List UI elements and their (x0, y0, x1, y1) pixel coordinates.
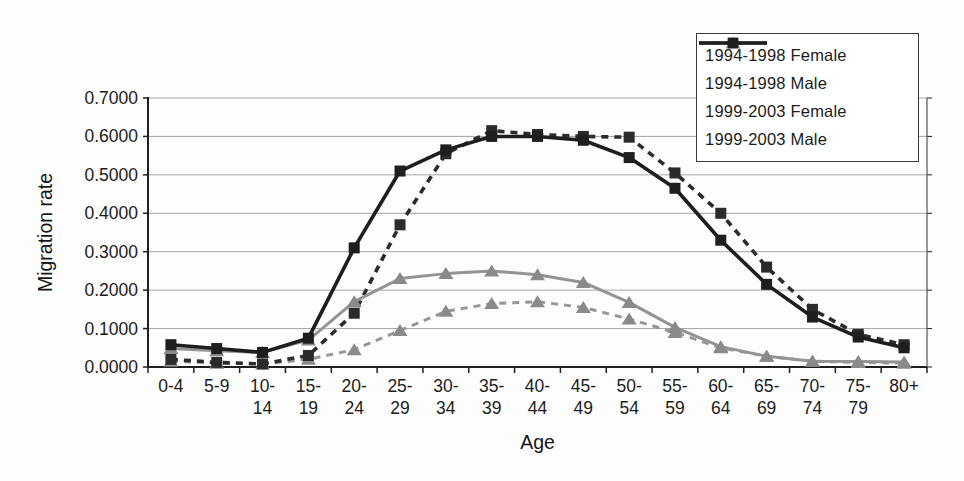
marker-square-1999-2003-male (715, 235, 726, 246)
series-line-1999-2003-male (171, 136, 904, 352)
x-tick-label: 39 (482, 398, 501, 418)
x-tick-label: 30- (433, 376, 458, 396)
x-tick-label: 24 (344, 398, 364, 418)
marker-square-1999-2003-male (853, 332, 864, 343)
legend-item: 1999-2003 Female (705, 102, 910, 121)
legend-item: 1999-2003 Male (705, 130, 910, 149)
marker-square-1999-2003-male (624, 152, 635, 163)
marker-square-1999-2003-male (807, 312, 818, 323)
marker-square-1994-1998-male (257, 358, 268, 369)
marker-triangle-1999-2003-female (622, 296, 637, 308)
x-tick-label: 79 (849, 398, 868, 418)
marker-square-1994-1998-male (303, 350, 314, 361)
marker-square-1994-1998-male (165, 354, 176, 365)
x-tick-label: 20- (342, 376, 367, 396)
legend-item: 1994-1998 Male (705, 74, 910, 93)
marker-square-1999-2003-male (303, 333, 314, 344)
x-tick-label: 44 (528, 398, 548, 418)
y-tick-label: 0.7000 (84, 88, 138, 108)
x-axis-title: Age (520, 431, 555, 453)
marker-square-1999-2003-male (349, 242, 360, 253)
series-line-1994-1998-female (171, 302, 904, 364)
migration-rate-chart: 0.00000.10000.20000.30000.40000.50000.60… (0, 0, 964, 481)
x-tick-label: 69 (757, 398, 776, 418)
marker-square-1999-2003-male (165, 339, 176, 350)
y-tick-label: 0.3000 (84, 242, 138, 262)
y-axis-title: Migration rate (34, 173, 56, 292)
marker-square-1999-2003-male (486, 131, 497, 142)
legend-label: 1994-1998 Male (705, 74, 827, 93)
y-tick-label: 0.1000 (84, 319, 138, 339)
x-tick-label: 80+ (889, 376, 919, 396)
x-tick-label: 60- (708, 376, 733, 396)
marker-square-1999-2003-male (211, 343, 222, 354)
x-tick-label: 14 (253, 398, 273, 418)
marker-square-1994-1998-male (715, 208, 726, 219)
x-tick-label: 5-9 (204, 376, 229, 396)
y-tick-label: 0.6000 (84, 126, 138, 146)
x-tick-label: 29 (390, 398, 409, 418)
x-tick-label: 0-4 (158, 376, 184, 396)
marker-square-1994-1998-male (761, 262, 772, 273)
x-tick-label: 55- (662, 376, 687, 396)
x-tick-label: 70- (800, 376, 825, 396)
y-tick-label: 0.4000 (84, 203, 138, 223)
y-tick-label: 0.2000 (84, 280, 138, 300)
chart-legend: 1994-1998 Female 1994-1998 Male 1999-200… (696, 33, 919, 162)
x-tick-label: 54 (619, 398, 639, 418)
marker-square-1999-2003-male (761, 279, 772, 290)
marker-triangle-1994-1998-female (347, 343, 362, 355)
marker-square-1994-1998-male (349, 308, 360, 319)
marker-square-1999-2003-male (669, 183, 680, 194)
legend-label: 1999-2003 Female (705, 102, 847, 121)
marker-triangle-1994-1998-female (622, 312, 637, 324)
marker-square-1994-1998-male (211, 357, 222, 368)
x-tick-label: 59 (665, 398, 684, 418)
marker-square-1994-1998-male (669, 167, 680, 178)
y-tick-label: 0.0000 (84, 357, 138, 377)
x-tick-label: 15- (296, 376, 321, 396)
x-tick-label: 19 (299, 398, 318, 418)
marker-square-1999-2003-male (728, 38, 738, 48)
x-tick-label: 40- (525, 376, 550, 396)
marker-square-1999-2003-male (532, 131, 543, 142)
marker-square-1994-1998-male (395, 219, 406, 230)
marker-square-1999-2003-male (395, 166, 406, 177)
x-tick-label: 75- (846, 376, 871, 396)
marker-square-1999-2003-male (440, 144, 451, 155)
y-tick-label: 0.5000 (84, 165, 138, 185)
legend-swatch-solid-square (697, 34, 769, 52)
x-tick-label: 10- (250, 376, 275, 396)
marker-square-1994-1998-male (624, 132, 635, 143)
x-tick-label: 64 (711, 398, 731, 418)
x-tick-label: 25- (387, 376, 412, 396)
x-tick-label: 74 (803, 398, 823, 418)
marker-triangle-1999-2003-female (667, 321, 682, 333)
marker-triangle-1994-1998-female (393, 324, 408, 336)
marker-square-1999-2003-male (578, 135, 589, 146)
x-tick-label: 45- (571, 376, 596, 396)
marker-square-1999-2003-male (899, 342, 910, 353)
x-tick-label: 34 (436, 398, 456, 418)
x-tick-label: 50- (616, 376, 641, 396)
legend-label: 1999-2003 Male (705, 130, 827, 149)
marker-square-1999-2003-male (257, 347, 268, 358)
x-tick-label: 35- (479, 376, 504, 396)
x-tick-label: 65- (754, 376, 779, 396)
x-tick-label: 49 (574, 398, 593, 418)
